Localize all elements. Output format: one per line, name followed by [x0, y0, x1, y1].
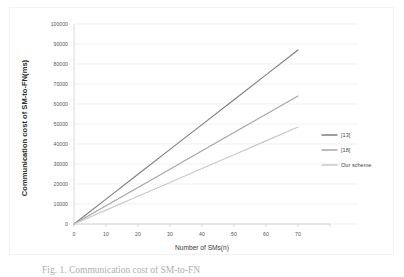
y-tick-label: 90000 [54, 41, 69, 47]
y-tick-label: 80000 [54, 61, 69, 67]
x-axis-tick-labels: 010203040506070 [73, 231, 301, 237]
x-tick-label: 70 [295, 231, 301, 237]
figure-caption: Fig. 1. Communication cost of SM-to-FN [42, 266, 200, 275]
data-series-group [74, 50, 298, 224]
series-line [74, 96, 298, 224]
x-tick-label: 10 [103, 231, 109, 237]
y-tick-label: 70000 [54, 81, 69, 87]
y-tick-label: 10000 [54, 201, 69, 207]
figure-container: 0100002000030000400005000060000700008000… [0, 0, 404, 277]
x-tick-label: 30 [167, 231, 173, 237]
x-axis-tick-marks [74, 224, 330, 227]
y-tick-label: 30000 [54, 161, 69, 167]
x-tick-label: 40 [199, 231, 205, 237]
y-axis-title: Communication cost of SM-to-FN(ms) [20, 59, 29, 196]
x-tick-label: 50 [231, 231, 237, 237]
y-tick-label: 20000 [54, 181, 69, 187]
x-tick-label: 0 [73, 231, 76, 237]
y-tick-label: 50000 [54, 121, 69, 127]
y-axis-tick-labels: 0100002000030000400005000060000700008000… [51, 21, 68, 227]
legend-label: Our scheme [341, 162, 371, 168]
legend-label: [13] [341, 132, 351, 138]
gridlines [74, 24, 358, 224]
x-tick-label: 60 [263, 231, 269, 237]
line-chart: 0100002000030000400005000060000700008000… [0, 0, 404, 277]
legend-label: [18] [341, 147, 351, 153]
y-tick-label: 60000 [54, 101, 69, 107]
y-tick-label: 0 [65, 221, 68, 227]
figure-caption-clip: Fig. 1. Communication cost of SM-to-FN [0, 266, 404, 277]
series-line [74, 127, 298, 224]
x-axis-title: Number of SMs(n) [175, 244, 229, 252]
y-tick-label: 40000 [54, 141, 69, 147]
chart-legend: [13][18]Our scheme [322, 132, 371, 168]
x-tick-label: 20 [135, 231, 141, 237]
series-line [74, 50, 298, 224]
y-tick-label: 100000 [51, 21, 68, 27]
